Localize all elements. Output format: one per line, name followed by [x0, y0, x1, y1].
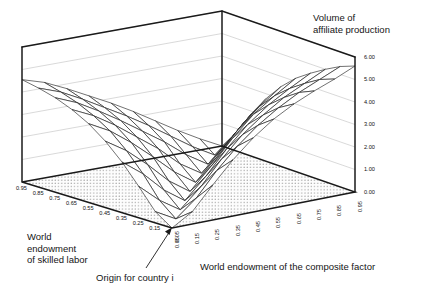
z-axis-tick-label: 5.00: [364, 76, 375, 82]
y-axis-tick-label: 0.45: [99, 210, 110, 216]
chart-title-line2: affiliate production: [313, 24, 390, 35]
x-axis-tick-label: 0.05: [174, 237, 180, 248]
y-axis-tick-label: 0.85: [33, 190, 44, 196]
origin-arrow-head: [165, 228, 172, 236]
y-axis-tick-label: 0.95: [16, 185, 27, 191]
x-axis-label: World endowment of the composite factor: [200, 261, 375, 273]
y-axis-tick-label: 0.15: [149, 225, 160, 231]
z-axis-tick-label: 6.00: [364, 54, 375, 60]
z-axis-tick-label: 2.00: [364, 144, 375, 150]
y-axis-label: Worldendowmentof skilled labor: [27, 231, 88, 266]
y-axis-label-line1: World: [27, 231, 52, 242]
x-axis-tick-label: 0.35: [235, 225, 241, 236]
y-axis-tick-label: 0.35: [116, 215, 127, 221]
x-axis-tick-label: 0.55: [275, 217, 281, 228]
x-axis-tick-label: 0.45: [255, 221, 261, 232]
y-axis-label-line2: endowment: [27, 243, 76, 254]
y-axis-label-line3: of skilled labor: [27, 254, 88, 265]
z-axis-tick-label: 1.00: [364, 166, 375, 172]
z-axis-tick-label: 4.00: [364, 99, 375, 105]
y-axis-tick-label: 0.55: [83, 205, 94, 211]
origin-arrow-line: [146, 231, 170, 268]
origin-callout-arrow: [146, 228, 172, 269]
chart-title: Volume ofaffiliate production: [313, 12, 390, 35]
origin-annotation-label: Origin for country i: [96, 272, 174, 284]
x-axis-tick-label: 0.85: [336, 205, 342, 216]
x-axis-tick-label: 0.15: [194, 233, 200, 244]
y-axis-tick-label: 0.65: [66, 200, 77, 206]
x-axis-tick-label: 0.95: [357, 201, 363, 212]
chart-title-line1: Volume of: [313, 12, 355, 23]
y-axis-tick-label: 0.75: [49, 195, 60, 201]
x-axis-tick-label: 0.65: [296, 213, 302, 224]
z-axis-tick-label: 0.00: [364, 189, 375, 195]
x-axis-tick-label: 0.75: [316, 209, 322, 220]
z-axis-tick-label: 3.00: [364, 121, 375, 127]
y-axis-tick-label: 0.25: [133, 220, 144, 226]
x-axis-tick-label: 0.25: [214, 229, 220, 240]
